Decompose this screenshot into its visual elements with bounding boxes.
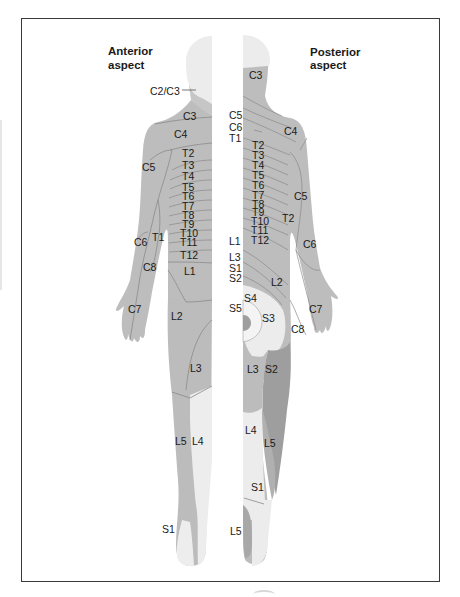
posterior-title-line2: aspect (310, 59, 347, 71)
posterior-title-line1: Posterior (310, 46, 361, 58)
label-c6: C6 (134, 236, 148, 248)
label-post-t12: T12 (251, 234, 269, 246)
label-post-s3: S3 (262, 312, 275, 324)
posterior-head (243, 35, 270, 70)
label-c3: C3 (183, 110, 197, 122)
label-c7: C7 (128, 303, 142, 315)
label-post-s2-mid: S2 (229, 272, 242, 284)
label-post-l3: L3 (247, 363, 259, 375)
label-post-c6-arm: C6 (303, 238, 317, 250)
label-post-c8: C8 (291, 323, 305, 335)
label-post-c5-arm: C5 (294, 190, 308, 202)
label-c2c3: C2/C3 (150, 85, 180, 97)
anterior-title-line1: Anterior (108, 45, 153, 57)
label-l5: L5 (175, 435, 187, 447)
label-post-s4: S4 (244, 292, 257, 304)
label-l3: L3 (190, 362, 202, 374)
label-l2: L2 (171, 310, 183, 322)
label-post-c4: C4 (284, 125, 298, 137)
label-post-c7: C7 (309, 303, 323, 315)
label-t12: T12 (180, 249, 198, 261)
label-t1: T1 (152, 231, 164, 243)
anterior-head (186, 36, 212, 104)
label-post-s1: S1 (251, 481, 264, 493)
label-c4: C4 (174, 128, 188, 140)
label-post-s2: S2 (265, 363, 278, 375)
label-s1: S1 (162, 523, 175, 535)
label-c8: C8 (143, 261, 157, 273)
anterior-body (116, 36, 212, 566)
page-bottom-mark (253, 590, 275, 597)
posterior-s1-heel (252, 500, 272, 566)
label-post-l1-mid: L1 (229, 235, 241, 247)
label-post-l5: L5 (264, 437, 276, 449)
label-t11: T11 (180, 236, 197, 248)
label-post-t1-mid: T1 (229, 132, 241, 144)
label-c5: C5 (142, 161, 156, 173)
dermatome-diagram: Anterior aspect Posterior aspect C2/C3 C… (0, 0, 460, 597)
label-t2: T2 (182, 147, 194, 159)
label-post-l5-foot: L5 (230, 525, 242, 537)
label-post-l4: L4 (245, 424, 257, 436)
label-l4: L4 (192, 435, 204, 447)
label-post-t2-arm: T2 (282, 212, 294, 224)
label-post-c5-mid: C5 (229, 109, 243, 121)
label-l1: L1 (184, 265, 196, 277)
anterior-title-line2: aspect (108, 59, 145, 71)
label-post-c3: C3 (249, 69, 263, 81)
label-post-l2: L2 (271, 276, 283, 288)
label-post-s5: S5 (229, 302, 242, 314)
